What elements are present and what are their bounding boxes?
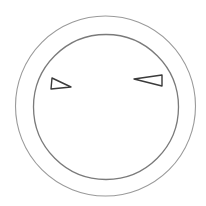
- left-eye-triangle: [51, 78, 71, 89]
- face-drawing: [0, 0, 206, 206]
- right-eye-triangle: [134, 75, 162, 86]
- outer-circle: [16, 16, 196, 196]
- sketch-canvas: [0, 0, 206, 206]
- inner-circle: [34, 35, 179, 180]
